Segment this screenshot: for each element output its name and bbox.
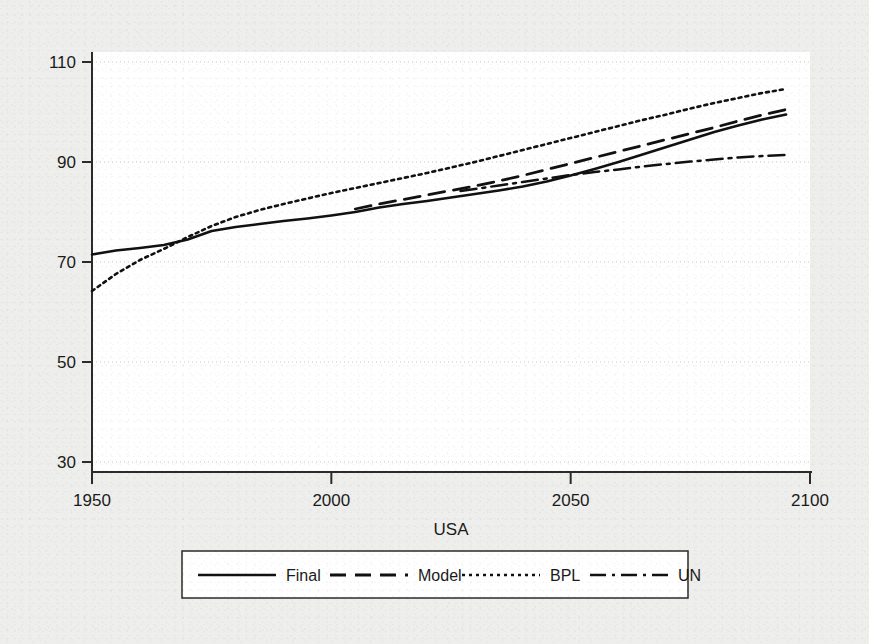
- y-axis-ticks-group: 30507090110: [49, 53, 92, 472]
- x-axis-ticks-group: 1950200020502100: [73, 472, 829, 510]
- legend-label-final[interactable]: Final: [286, 567, 321, 584]
- plot-area-background: [92, 52, 810, 472]
- chart-canvas: 30507090110 1950200020502100 USA FinalMo…: [0, 0, 869, 644]
- x-tick-label-2050: 2050: [552, 491, 590, 510]
- y-tick-label-50: 50: [57, 353, 76, 372]
- y-tick-label-30: 30: [57, 453, 76, 472]
- x-tick-label-1950: 1950: [73, 491, 111, 510]
- y-tick-label-110: 110: [49, 53, 76, 72]
- chart-figure: 30507090110 1950200020502100 USA FinalMo…: [0, 0, 869, 644]
- y-tick-label-70: 70: [57, 253, 76, 272]
- x-tick-label-2100: 2100: [791, 491, 829, 510]
- legend: FinalModelBPLUN: [182, 551, 701, 598]
- x-tick-label-2000: 2000: [312, 491, 350, 510]
- legend-label-model[interactable]: Model: [418, 567, 462, 584]
- x-axis-title: USA: [434, 520, 470, 539]
- legend-label-bpl[interactable]: BPL: [550, 567, 580, 584]
- legend-label-un[interactable]: UN: [678, 567, 701, 584]
- y-tick-label-90: 90: [57, 153, 76, 172]
